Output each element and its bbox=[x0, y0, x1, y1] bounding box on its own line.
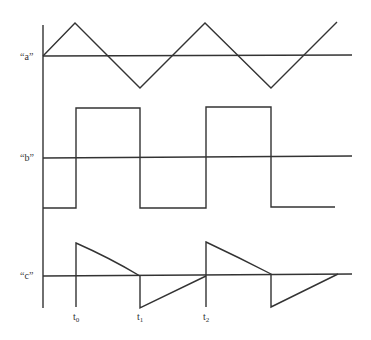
signal-a-label: “a” bbox=[20, 51, 33, 62]
t1-label: t1 bbox=[137, 311, 144, 324]
signal-b-label: “b” bbox=[20, 152, 34, 163]
signal-c-label: “c” bbox=[20, 270, 33, 281]
t0-label: t0 bbox=[73, 311, 80, 324]
waveform-diagram: “a” “b” “c” t0 t1 t2 bbox=[0, 0, 371, 340]
signal-b-baseline bbox=[43, 156, 352, 158]
signal-a-baseline bbox=[43, 55, 352, 56]
signal-c-baseline bbox=[43, 274, 352, 276]
t2-label: t2 bbox=[203, 311, 210, 324]
